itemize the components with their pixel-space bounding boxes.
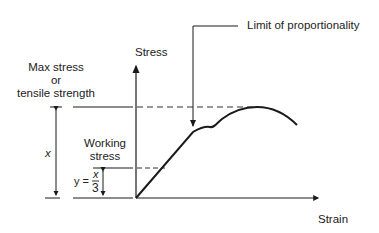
x-axis-label: Strain xyxy=(318,213,348,226)
limit-leader xyxy=(193,26,238,126)
limit-of-proportionality-label: Limit of proportionality xyxy=(247,19,360,32)
formula-denominator: 3 xyxy=(92,182,99,195)
stress-strain-diagram xyxy=(0,0,379,233)
formula-numerator: x xyxy=(93,168,99,181)
working-stress-label: Working stress xyxy=(80,137,130,163)
dimension-x-label: x xyxy=(45,147,51,160)
stress-strain-curve xyxy=(136,107,297,198)
y-axis-label: Stress xyxy=(135,46,168,59)
max-stress-label: Max stress or tensile strength xyxy=(14,61,98,100)
formula-lhs: y = xyxy=(74,175,89,188)
